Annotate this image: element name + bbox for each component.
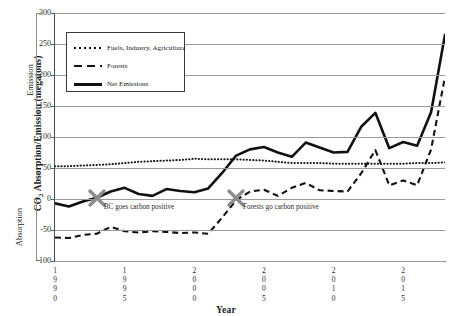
x-tick-digit: 0 [327,275,341,284]
y-axis-emission-label: Emission [25,43,35,117]
x-tick-digit: 0 [327,294,341,303]
series-line-dotted [55,159,445,166]
series-line-dashed [55,77,445,238]
gridline-300 [55,13,445,14]
x-tick-digit: 2 [396,266,410,275]
legend-box: Fuels, Industry, AgricultureForestsNet E… [66,32,185,92]
y-tick-label: 150 [39,102,51,110]
emission-bracket [36,13,37,108]
x-tick-digit: 0 [257,275,271,284]
legend-item[interactable]: Net Emissions [74,75,178,93]
y-tick-label: -50 [40,226,51,234]
legend-label: Net Emissions [107,80,148,88]
absorption-bracket [36,199,37,261]
y-tick-label: 100 [39,133,51,141]
x-tick-digit: 2 [257,266,271,275]
legend-swatch-solid [74,80,102,89]
chart-figure: CO2 Absorption/Emission (megatons) Emiss… [0,0,452,316]
x-tick-digit: 2 [327,266,341,275]
y-tick-label: 200 [39,71,51,79]
y-axis-absorption-label: Absorption [14,194,24,260]
x-tick-digit: 9 [48,275,62,284]
y-axis-label-subscript: 2 [37,193,45,197]
x-tick-digit: 2 [187,266,201,275]
x-tick-digit: 1 [396,284,410,293]
x-tick-label-2000: 2000 [187,266,201,303]
y-tick-label: 50 [43,164,51,172]
x-tick-label-1990: 1990 [48,266,62,303]
legend-swatch-dashed [74,62,102,71]
annotation-label: BC goes carbon positive [104,203,174,211]
y-tick-mark [51,44,55,45]
y-tick-mark [51,261,55,262]
x-tick-digit: 0 [48,294,62,303]
x-tick-label-2005: 2005 [257,266,271,303]
x-tick-label-2015: 2015 [396,266,410,303]
x-tick-digit: 9 [48,284,62,293]
clipped-title [0,0,452,9]
x-tick-digit: 0 [187,275,201,284]
x-tick-digit: 0 [187,284,201,293]
gridline--50 [55,230,445,231]
x-tick-digit: 0 [257,284,271,293]
x-tick-digit: 9 [118,284,132,293]
legend-label: Forests [107,62,128,70]
annotation-label: Forests go carbon positive [243,203,319,211]
x-tick-digit: 5 [257,294,271,303]
legend-item[interactable]: Forests [74,57,178,75]
x-axis-label: Year [0,305,452,315]
y-tick-mark [51,106,55,107]
y-tick-mark [51,13,55,14]
y-tick-label: 300 [39,9,51,17]
x-tick-digit: 1 [48,266,62,275]
gridline-0 [55,199,445,200]
legend-label: Fuels, Industry, Agriculture [107,44,185,52]
x-tick-digit: 0 [187,294,201,303]
y-tick-mark [51,168,55,169]
x-tick-label-1995: 1995 [118,266,132,303]
y-tick-label: 250 [39,40,51,48]
gridline-150 [55,106,445,107]
gridline--100 [55,261,445,262]
x-tick-digit: 5 [118,294,132,303]
gridline-100 [55,137,445,138]
y-tick-mark [51,230,55,231]
y-tick-mark [51,137,55,138]
x-tick-digit: 9 [118,275,132,284]
y-tick-mark [51,75,55,76]
x-tick-digit: 0 [396,275,410,284]
x-tick-label-2010: 2010 [327,266,341,303]
legend-item[interactable]: Fuels, Industry, Agriculture [74,39,178,57]
x-tick-digit: 1 [118,266,132,275]
y-tick-label: -100 [36,257,51,265]
y-tick-mark [51,199,55,200]
gridline-50 [55,168,445,169]
x-tick-digit: 5 [396,294,410,303]
legend-swatch-dotted [74,44,102,53]
x-tick-digit: 1 [327,284,341,293]
